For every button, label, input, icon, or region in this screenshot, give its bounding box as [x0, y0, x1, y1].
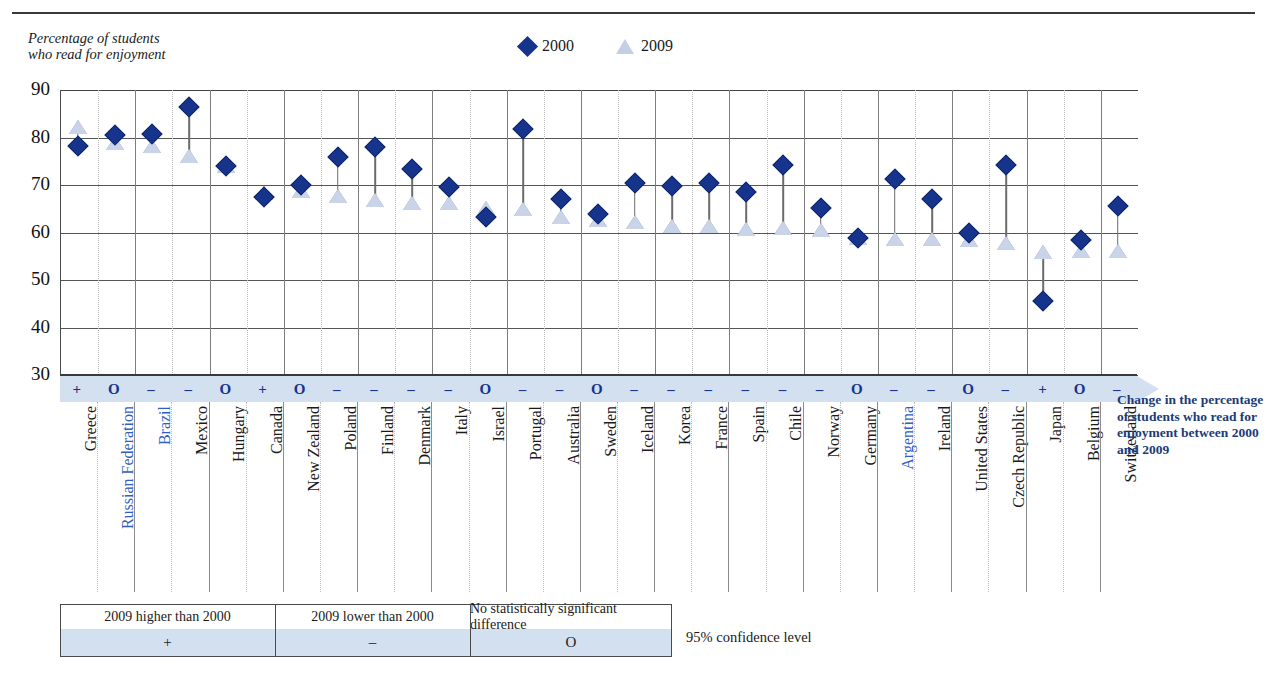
country-label-cell: Finland	[357, 402, 391, 592]
data-point-group	[210, 90, 244, 375]
label-divider-6	[283, 402, 284, 592]
data-point-group	[581, 90, 615, 375]
label-divider-4	[209, 402, 210, 592]
country-label-cell: Belgium	[1063, 402, 1097, 592]
country-label-cell: Australia	[543, 402, 577, 592]
country-label-cell: Argentina	[877, 402, 911, 592]
triangle-icon	[1109, 244, 1127, 258]
triangle-icon	[616, 39, 634, 54]
label-divider-18	[728, 402, 729, 592]
legend-item-2009: 2009	[616, 37, 673, 55]
label-divider-10	[431, 402, 432, 592]
diamond-icon	[364, 137, 385, 158]
label-divider-27	[1063, 402, 1065, 592]
triangle-icon	[403, 196, 421, 210]
legend-item-2000: 2000	[520, 37, 574, 55]
diamond-icon	[921, 188, 942, 209]
diamond-icon	[810, 198, 831, 219]
country-label-cell: Japan	[1026, 402, 1060, 592]
chart-legend: 2000 2009	[520, 36, 673, 56]
country-label-cell: Ireland	[914, 402, 948, 592]
country-label-cell: Poland	[320, 402, 354, 592]
country-label-cell: Brazil	[134, 402, 168, 592]
confidence-note: 95% confidence level	[686, 629, 812, 646]
data-point-group	[247, 90, 281, 375]
y-tick-40: 40	[8, 316, 50, 338]
triangle-icon	[1034, 245, 1052, 259]
significance-symbol: –	[803, 376, 837, 402]
significance-symbol: +	[1026, 376, 1060, 402]
label-divider-17	[691, 402, 693, 592]
label-divider-2	[134, 402, 135, 592]
legend-label-2000: 2000	[542, 37, 574, 55]
data-point-group	[395, 90, 429, 375]
data-point-group	[507, 90, 541, 375]
triangle-icon	[440, 196, 458, 210]
diamond-icon	[179, 96, 200, 117]
country-label-cell: United States	[951, 402, 985, 592]
diamond-icon	[884, 169, 905, 190]
data-point-group	[284, 90, 318, 375]
label-divider-21	[840, 402, 842, 592]
y-tick-50: 50	[8, 268, 50, 290]
y-axis-caption-line2: who read for enjoyment	[28, 46, 248, 62]
legend-label-2009: 2009	[641, 37, 673, 55]
data-point-group	[655, 90, 689, 375]
label-divider-8	[357, 402, 358, 592]
data-point-group	[804, 90, 838, 375]
significance-symbol: O	[97, 376, 131, 402]
significance-symbol: –	[171, 376, 205, 402]
country-label-cell: Hungary	[209, 402, 243, 592]
label-divider-25	[988, 402, 990, 592]
triangle-icon	[774, 221, 792, 235]
label-divider-19	[766, 402, 768, 592]
connector-line	[1005, 165, 1007, 244]
significance-symbol: O	[469, 376, 503, 402]
data-point-group	[61, 90, 95, 375]
diamond-icon	[550, 188, 571, 209]
diamond-icon	[513, 119, 534, 140]
significance-symbol: –	[914, 376, 948, 402]
significance-symbol: +	[60, 376, 94, 402]
data-point-group	[544, 90, 578, 375]
label-divider-3	[171, 402, 173, 592]
diamond-icon	[773, 154, 794, 175]
significance-symbol: –	[691, 376, 725, 402]
diamond-icon	[327, 146, 348, 167]
country-label-cell: Chile	[766, 402, 800, 592]
label-divider-22	[877, 402, 878, 592]
significance-symbol: –	[134, 376, 168, 402]
country-label-cell: Canada	[246, 402, 280, 592]
data-point-group	[915, 90, 949, 375]
label-divider-7	[320, 402, 322, 592]
country-label-cell: Norway	[803, 402, 837, 592]
data-point-group	[321, 90, 355, 375]
country-label-cell: Israel	[469, 402, 503, 592]
diamond-icon	[624, 172, 645, 193]
significance-symbol: –	[506, 376, 540, 402]
country-label-cell: Sweden	[580, 402, 614, 592]
triangle-icon	[329, 189, 347, 203]
y-tick-30: 30	[8, 363, 50, 385]
triangle-icon	[812, 223, 830, 237]
key-header-lower: 2009 lower than 2000	[275, 604, 470, 629]
significance-symbol: –	[766, 376, 800, 402]
y-axis-caption: Percentage of students who read for enjo…	[28, 30, 248, 62]
label-divider-14	[580, 402, 581, 592]
data-point-group	[952, 90, 986, 375]
diamond-icon	[699, 172, 720, 193]
triangle-icon	[997, 236, 1015, 250]
data-point-group	[1027, 90, 1061, 375]
key-symbol-minus: –	[275, 629, 470, 656]
label-divider-16	[654, 402, 655, 592]
significance-symbol: –	[394, 376, 428, 402]
data-point-group	[767, 90, 801, 375]
significance-symbol: –	[654, 376, 688, 402]
y-tick-90: 90	[8, 78, 50, 100]
key-header-nodiff: No statistically significant difference	[470, 604, 672, 629]
data-point-group	[1064, 90, 1098, 375]
diamond-icon	[67, 135, 88, 156]
significance-symbol: –	[431, 376, 465, 402]
plot-area	[60, 90, 1137, 375]
figure-top-rule	[12, 12, 1255, 14]
